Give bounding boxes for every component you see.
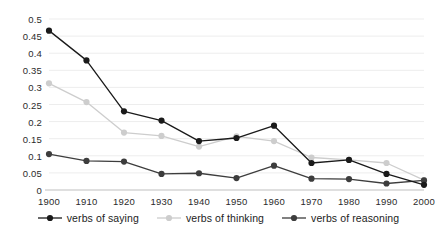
data-point-marker [46, 151, 52, 157]
y-axis-tick-label: 0.5 [10, 14, 42, 25]
legend-item[interactable]: verbs of thinking [156, 212, 264, 224]
legend-label: verbs of reasoning [311, 212, 399, 224]
data-point-marker [196, 138, 202, 144]
data-point-marker [233, 175, 239, 181]
data-point-marker [158, 133, 164, 139]
chart-legend: verbs of sayingverbs of thinkingverbs of… [0, 212, 436, 224]
data-point-marker [158, 171, 164, 177]
x-axis-tick-label: 1990 [376, 196, 398, 207]
legend-marker-icon [281, 213, 307, 223]
gridlines [49, 19, 424, 173]
data-point-marker [83, 99, 89, 105]
data-point-marker [46, 28, 52, 34]
data-point-marker [158, 117, 164, 123]
y-axis-tick-label: 0.1 [10, 150, 42, 161]
x-axis-tick-label: 1970 [301, 196, 323, 207]
y-axis-tick-label: 0.45 [10, 31, 42, 42]
data-point-marker [196, 143, 202, 149]
data-point-marker [83, 158, 89, 164]
data-point-marker [233, 135, 239, 141]
x-axis-tick-label: 1980 [338, 196, 360, 207]
data-point-marker [271, 123, 277, 129]
data-point-marker [346, 176, 352, 182]
y-axis-tick-label: 0.25 [10, 99, 42, 110]
legend-label: verbs of saying [67, 212, 139, 224]
legend-item[interactable]: verbs of reasoning [281, 212, 399, 224]
data-point-marker [421, 182, 427, 188]
chart-plot-area [0, 0, 436, 241]
y-axis-tick-label: 0.15 [10, 133, 42, 144]
data-point-marker [271, 138, 277, 144]
data-point-marker [346, 157, 352, 163]
legend-marker-icon [37, 213, 63, 223]
data-point-marker [308, 176, 314, 182]
x-axis-tick-label: 1930 [151, 196, 173, 207]
x-axis-tick-label: 1940 [188, 196, 210, 207]
y-axis-tick-label: 0.2 [10, 116, 42, 127]
y-axis-tick-label: 0.4 [10, 48, 42, 59]
data-point-marker [308, 154, 314, 160]
x-axis-tick-label: 2000 [413, 196, 435, 207]
data-point-marker [383, 160, 389, 166]
series-line [49, 83, 424, 180]
data-point-marker [383, 171, 389, 177]
x-axis-tick-label: 1920 [113, 196, 135, 207]
data-point-marker [383, 180, 389, 186]
line-chart: 0.50.450.40.350.30.250.20.150.10.050 190… [0, 0, 436, 241]
data-point-marker [196, 170, 202, 176]
data-point-marker [308, 160, 314, 166]
data-point-marker [271, 163, 277, 169]
x-axis-tick-label: 1960 [263, 196, 285, 207]
legend-item[interactable]: verbs of saying [37, 212, 139, 224]
x-axis-tick-label: 1900 [38, 196, 60, 207]
data-series-group [46, 28, 427, 188]
y-axis-tick-label: 0.05 [10, 167, 42, 178]
legend-label: verbs of thinking [186, 212, 264, 224]
y-axis-tick-label: 0 [10, 185, 42, 196]
legend-marker-icon [156, 213, 182, 223]
data-point-marker [121, 129, 127, 135]
y-axis-tick-label: 0.3 [10, 82, 42, 93]
data-point-marker [121, 159, 127, 165]
x-axis-tick-label: 1910 [76, 196, 98, 207]
y-axis-tick-label: 0.35 [10, 65, 42, 76]
x-axis-tick-label: 1950 [226, 196, 248, 207]
data-point-marker [46, 80, 52, 86]
data-point-marker [121, 108, 127, 114]
data-point-marker [83, 57, 89, 63]
